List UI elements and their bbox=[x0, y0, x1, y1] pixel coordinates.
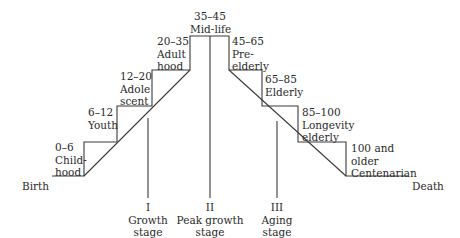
death-label: Death bbox=[412, 180, 444, 193]
stage-longevity-elderly-label: 85–100 Longevity elderly bbox=[302, 106, 354, 144]
stage-midlife-label: 35–45 Mid-life bbox=[190, 10, 230, 35]
stage-elderly-label: 65–85 Elderly bbox=[265, 73, 303, 98]
phase-iii-aging-label: III Aging stage bbox=[252, 201, 302, 238]
stage-youth-label: 6–12 Youth bbox=[88, 106, 118, 131]
stage-centenarian-label: 100 and older Centenarian bbox=[351, 142, 417, 180]
stage-pre-elderly-label: 45–65 Pre- elderly bbox=[232, 35, 269, 73]
birth-label: Birth bbox=[22, 180, 49, 193]
stage-adolescence-label: 12–20 Adole scent bbox=[120, 70, 152, 108]
stage-childhood-label: 0–6 Child- hood bbox=[55, 141, 87, 179]
phase-i-growth-label: I Growth stage bbox=[118, 201, 178, 238]
phase-ii-peak-growth-label: II Peak growth stage bbox=[170, 201, 250, 238]
stage-adulthood-label: 20–35 Adult hood bbox=[157, 35, 189, 73]
